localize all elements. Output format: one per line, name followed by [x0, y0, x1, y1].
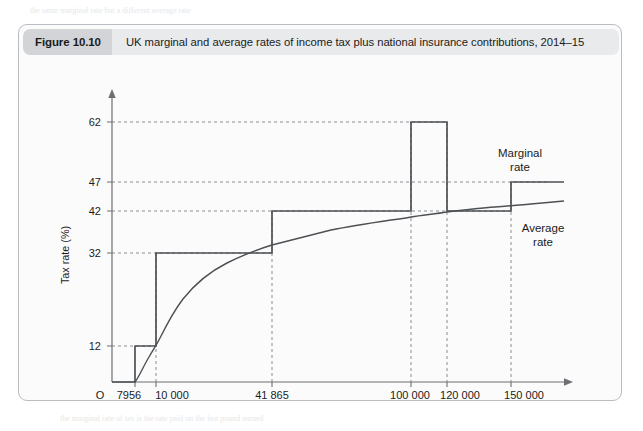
average-rate-label-line1: Average — [522, 222, 565, 234]
vertical-gridlines — [156, 122, 511, 382]
y-tick-label-47: 47 — [89, 176, 101, 188]
y-tick-label-62: 62 — [89, 116, 101, 128]
page-bleed-bottom: the marginal rate of tax is the rate pai… — [60, 414, 264, 423]
marginal-rate-label-line1: Marginal — [498, 147, 542, 159]
average-rate-label-line2: rate — [533, 236, 553, 248]
marginal-rate-label-line2: rate — [510, 161, 530, 173]
horizontal-gridlines — [112, 122, 549, 346]
axes — [108, 89, 573, 386]
plot-area: 62 47 42 32 12 Tax rate (%) O 7956 — [19, 55, 622, 401]
figure-title: UK marginal and average rates of income … — [112, 36, 619, 48]
x-tick-label-41865: 41 865 — [255, 389, 289, 401]
average-rate-label: Average rate — [522, 222, 565, 248]
page-bleed-top-left: the same marginal rate but a different a… — [30, 6, 191, 15]
x-tick-label-120000: 120 000 — [440, 389, 480, 401]
average-rate-curve — [135, 201, 564, 382]
y-axis-arrow — [108, 89, 115, 98]
x-tick-label-10000: 10 000 — [155, 389, 189, 401]
marginal-rate-label: Marginal rate — [498, 147, 542, 173]
y-tick-label-12: 12 — [89, 340, 101, 352]
x-tick-label-150000: 150 000 — [504, 389, 544, 401]
origin-label: O — [96, 389, 105, 401]
figure-number-pill: Figure 10.10 — [23, 29, 112, 55]
x-tick-labels: O 7956 10 000 41 865 100 000 120 000 150… — [96, 389, 544, 401]
y-tick-label-32: 32 — [89, 247, 101, 259]
x-tick-label-100000: 100 000 — [390, 389, 430, 401]
x-tick-label-7956: 7956 — [117, 389, 141, 401]
x-tick-marks — [135, 382, 511, 387]
x-axis-arrow — [564, 378, 573, 385]
figure-caption-bar: Figure 10.10 UK marginal and average rat… — [23, 29, 619, 55]
y-tick-labels: 62 47 42 32 12 — [89, 116, 101, 352]
y-tick-marks — [107, 122, 112, 346]
figure-container: Figure 10.10 UK marginal and average rat… — [18, 24, 622, 401]
y-tick-label-42: 42 — [89, 205, 101, 217]
y-axis-title: Tax rate (%) — [59, 226, 71, 284]
marginal-rate-curve — [112, 122, 564, 382]
chart-svg: 62 47 42 32 12 Tax rate (%) O 7956 — [19, 55, 622, 401]
